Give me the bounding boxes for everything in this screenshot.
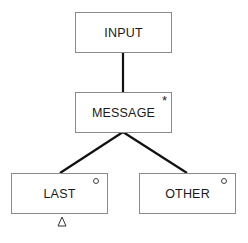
edge-message-last bbox=[60, 132, 123, 173]
node-other-label: OTHER bbox=[165, 187, 210, 201]
node-message-label: MESSAGE bbox=[92, 106, 155, 120]
asterisk-marker: * bbox=[162, 94, 167, 107]
node-input-label: INPUT bbox=[104, 26, 143, 40]
node-message[interactable]: MESSAGE bbox=[75, 92, 172, 133]
node-last-label: LAST bbox=[43, 187, 75, 201]
circle-marker-icon bbox=[93, 178, 99, 184]
node-input[interactable]: INPUT bbox=[75, 12, 172, 53]
edge-message-other bbox=[123, 132, 187, 173]
circle-marker-icon bbox=[221, 178, 227, 184]
triangle-icon bbox=[58, 217, 66, 226]
